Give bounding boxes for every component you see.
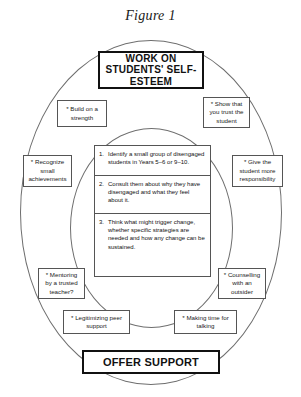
figure-diagram: Figure 1 WORK ON STUDENTS' SELF-ESTEEM 1… xyxy=(0,0,301,397)
step-text: Think what might trigger change, whether… xyxy=(108,218,205,251)
step-text: Consult them about why they have disenga… xyxy=(108,180,205,205)
figure-caption: Figure 1 xyxy=(0,8,301,24)
step-item: 1. Identify a small group of disengaged … xyxy=(95,146,210,176)
step-item: 3. Think what might trigger change, whet… xyxy=(95,214,210,276)
callout-legitimizing-peer-support: * Legitimizing peer support xyxy=(63,310,130,334)
callout-mentoring-by-a-trusted-teacher: * Mentoring by a trusted teacher? xyxy=(38,268,85,299)
step-text: Identify a small group of disengaged stu… xyxy=(108,150,205,166)
callout-counselling-with-an-outsider: * Counselling with an outsider xyxy=(218,268,266,299)
callout-give-the-student-more-responsibility: * Give the student more responsibility xyxy=(232,155,283,187)
step-number: 3. xyxy=(99,218,108,226)
step-number: 1. xyxy=(99,150,108,158)
callout-making-time-for-talking: * Making time for talking xyxy=(174,310,237,334)
step-number: 2. xyxy=(99,180,108,188)
callout-recognize-small-achievements: * Recognize small achievements xyxy=(23,155,72,187)
step-item: 2. Consult them about why they have dise… xyxy=(95,176,210,214)
callout-show-that-you-trust-the-student: * Show that you trust the student xyxy=(203,97,250,128)
header-box-work-on-self-esteem: WORK ON STUDENTS' SELF-ESTEEM xyxy=(98,51,204,89)
callout-build-on-a-strength: * Build on a strength xyxy=(57,100,107,127)
footer-box-offer-support: OFFER SUPPORT xyxy=(82,350,220,374)
steps-panel: 1. Identify a small group of disengaged … xyxy=(94,145,211,277)
